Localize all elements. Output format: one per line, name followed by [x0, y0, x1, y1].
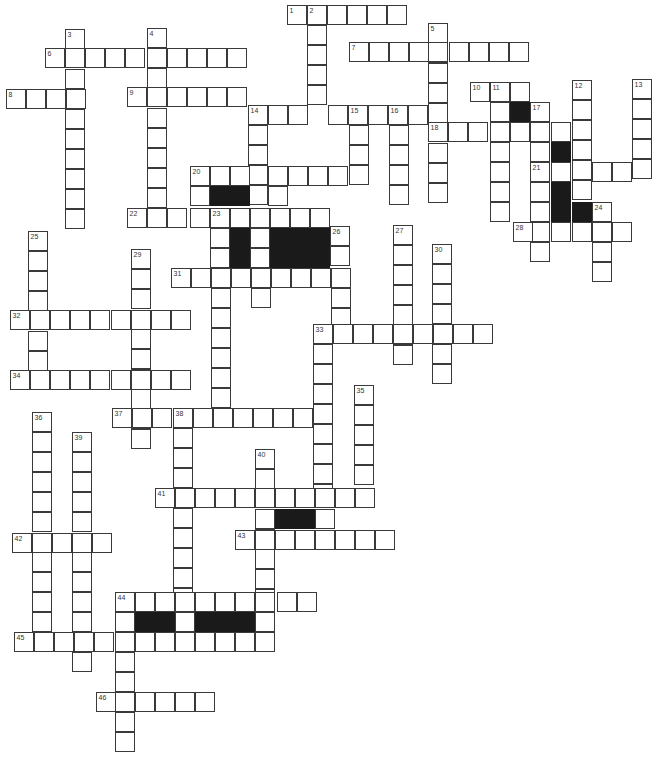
crossword-cell[interactable] [92, 533, 112, 553]
crossword-cell[interactable] [65, 69, 85, 89]
crossword-cell[interactable] [530, 182, 550, 202]
crossword-cell[interactable] [173, 508, 193, 528]
crossword-cell[interactable] [72, 452, 92, 472]
crossword-cell[interactable] [211, 308, 231, 328]
crossword-cell[interactable] [428, 83, 448, 103]
crossword-cell[interactable]: 42 [12, 533, 32, 553]
crossword-cell[interactable] [632, 139, 652, 159]
crossword-cell[interactable] [313, 424, 333, 444]
crossword-cell[interactable] [428, 163, 448, 183]
crossword-cell[interactable] [152, 408, 172, 428]
crossword-cell[interactable] [72, 552, 92, 572]
crossword-cell[interactable] [72, 572, 92, 592]
crossword-cell[interactable]: 36 [32, 412, 52, 432]
crossword-cell[interactable]: 16 [388, 105, 408, 125]
crossword-cell[interactable] [131, 310, 151, 330]
crossword-cell[interactable] [54, 632, 74, 652]
crossword-cell[interactable] [131, 370, 151, 390]
crossword-cell[interactable] [347, 5, 367, 25]
crossword-cell[interactable] [211, 328, 231, 348]
crossword-cell[interactable] [255, 569, 275, 589]
crossword-cell[interactable] [268, 186, 288, 206]
crossword-cell[interactable]: 6 [45, 48, 65, 68]
crossword-cell[interactable] [328, 166, 348, 186]
crossword-cell[interactable] [171, 370, 191, 390]
crossword-cell[interactable] [428, 63, 448, 83]
crossword-cell[interactable] [207, 87, 227, 107]
crossword-cell[interactable] [308, 166, 328, 186]
crossword-cell[interactable] [211, 348, 231, 368]
crossword-cell[interactable] [389, 185, 409, 205]
crossword-cell[interactable] [369, 42, 389, 62]
crossword-cell[interactable] [551, 122, 571, 142]
crossword-cell[interactable] [409, 42, 429, 62]
crossword-cell[interactable] [311, 268, 331, 288]
crossword-cell[interactable] [131, 349, 151, 369]
crossword-cell[interactable] [315, 530, 335, 550]
crossword-cell[interactable]: 13 [632, 79, 652, 99]
crossword-cell[interactable] [473, 324, 493, 344]
crossword-cell[interactable] [632, 159, 652, 179]
crossword-cell[interactable] [251, 288, 271, 308]
crossword-cell[interactable]: 33 [313, 324, 333, 344]
crossword-cell[interactable] [250, 248, 270, 268]
crossword-cell[interactable]: 23 [210, 208, 230, 228]
crossword-cell[interactable]: 21 [530, 162, 550, 182]
crossword-cell[interactable] [52, 533, 72, 553]
crossword-cell[interactable] [349, 125, 369, 145]
crossword-cell[interactable] [270, 208, 290, 228]
crossword-cell[interactable] [632, 119, 652, 139]
crossword-cell[interactable]: 40 [255, 449, 275, 469]
crossword-cell[interactable] [349, 165, 369, 185]
crossword-cell[interactable] [28, 291, 48, 311]
crossword-cell[interactable] [288, 166, 308, 186]
crossword-cell[interactable] [147, 108, 167, 128]
crossword-cell[interactable]: 32 [10, 310, 30, 330]
crossword-cell[interactable] [135, 592, 155, 612]
crossword-cell[interactable] [273, 408, 293, 428]
crossword-cell[interactable] [213, 408, 233, 428]
crossword-cell[interactable] [354, 445, 374, 465]
crossword-cell[interactable]: 20 [190, 166, 210, 186]
crossword-cell[interactable]: 3 [65, 29, 85, 49]
crossword-cell[interactable] [255, 592, 275, 612]
crossword-cell[interactable] [307, 85, 327, 105]
crossword-cell[interactable] [235, 632, 255, 652]
crossword-cell[interactable] [90, 370, 110, 390]
crossword-cell[interactable]: 27 [393, 225, 413, 245]
crossword-cell[interactable] [72, 592, 92, 612]
crossword-cell[interactable] [313, 364, 333, 384]
crossword-cell[interactable] [173, 428, 193, 448]
crossword-cell[interactable] [335, 488, 355, 508]
crossword-cell[interactable] [211, 388, 231, 408]
crossword-cell[interactable] [393, 324, 413, 344]
crossword-cell[interactable] [432, 264, 452, 284]
crossword-cell[interactable] [90, 310, 110, 330]
crossword-cell[interactable]: 34 [10, 370, 30, 390]
crossword-cell[interactable] [155, 632, 175, 652]
crossword-cell[interactable] [230, 166, 250, 186]
crossword-cell[interactable] [393, 245, 413, 265]
crossword-cell[interactable] [190, 208, 210, 228]
crossword-cell[interactable] [231, 268, 251, 288]
crossword-cell[interactable] [235, 488, 255, 508]
crossword-cell[interactable] [147, 188, 167, 208]
crossword-cell[interactable]: 41 [155, 488, 175, 508]
crossword-cell[interactable] [530, 122, 550, 142]
crossword-cell[interactable] [248, 125, 268, 145]
crossword-cell[interactable] [65, 169, 85, 189]
crossword-cell[interactable]: 8 [6, 89, 26, 109]
crossword-cell[interactable] [330, 246, 350, 266]
crossword-cell[interactable] [30, 370, 50, 390]
crossword-cell[interactable] [66, 89, 86, 109]
crossword-cell[interactable] [70, 370, 90, 390]
crossword-cell[interactable] [250, 228, 270, 248]
crossword-cell[interactable] [195, 592, 215, 612]
crossword-cell[interactable] [393, 345, 413, 365]
crossword-cell[interactable] [255, 530, 275, 550]
crossword-cell[interactable]: 4 [147, 28, 167, 48]
crossword-cell[interactable] [207, 48, 227, 68]
crossword-cell[interactable] [433, 324, 453, 344]
crossword-cell[interactable] [211, 288, 231, 308]
crossword-cell[interactable] [349, 145, 369, 165]
